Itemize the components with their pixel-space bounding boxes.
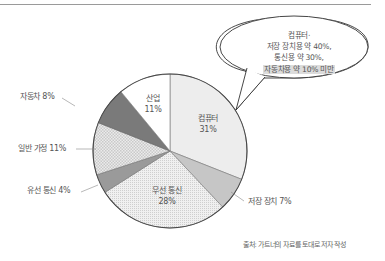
- label-wireless: 무선 통신 28%: [142, 185, 192, 207]
- leader-wired: [81, 185, 98, 192]
- label-wired: 유선 통신 4%: [27, 185, 70, 196]
- callout-line-4: 자동차용 약 10% 미만: [263, 65, 334, 74]
- label-computer-value: 31%: [188, 124, 228, 135]
- label-computer: 컴퓨터 31%: [188, 113, 228, 135]
- leader-storage: [231, 192, 244, 201]
- label-wireless-name: 무선 통신: [142, 185, 192, 196]
- label-car: 자동차 8%: [20, 91, 54, 102]
- label-home: 일반 가정 11%: [18, 143, 66, 154]
- source-note: 출처: 가트너의 자료를 토대로 저자 작성: [243, 239, 346, 249]
- label-storage: 저장 장치 7%: [248, 196, 291, 207]
- label-industry-value: 11%: [138, 104, 168, 115]
- callout-line-3: 통신용 약 30%,: [247, 52, 351, 63]
- callout-line-1: 컴퓨터·: [247, 30, 351, 41]
- callout-text: 컴퓨터· 저장 장치용 약 40%, 통신용 약 30%, 자동차용 약 10%…: [247, 30, 351, 75]
- label-industry: 산업 11%: [138, 93, 168, 115]
- label-wireless-value: 28%: [142, 196, 192, 207]
- leader-car: [62, 98, 75, 106]
- callout-line-2: 저장 장치용 약 40%,: [247, 41, 351, 52]
- label-industry-name: 산업: [138, 93, 168, 104]
- label-computer-name: 컴퓨터: [188, 113, 228, 124]
